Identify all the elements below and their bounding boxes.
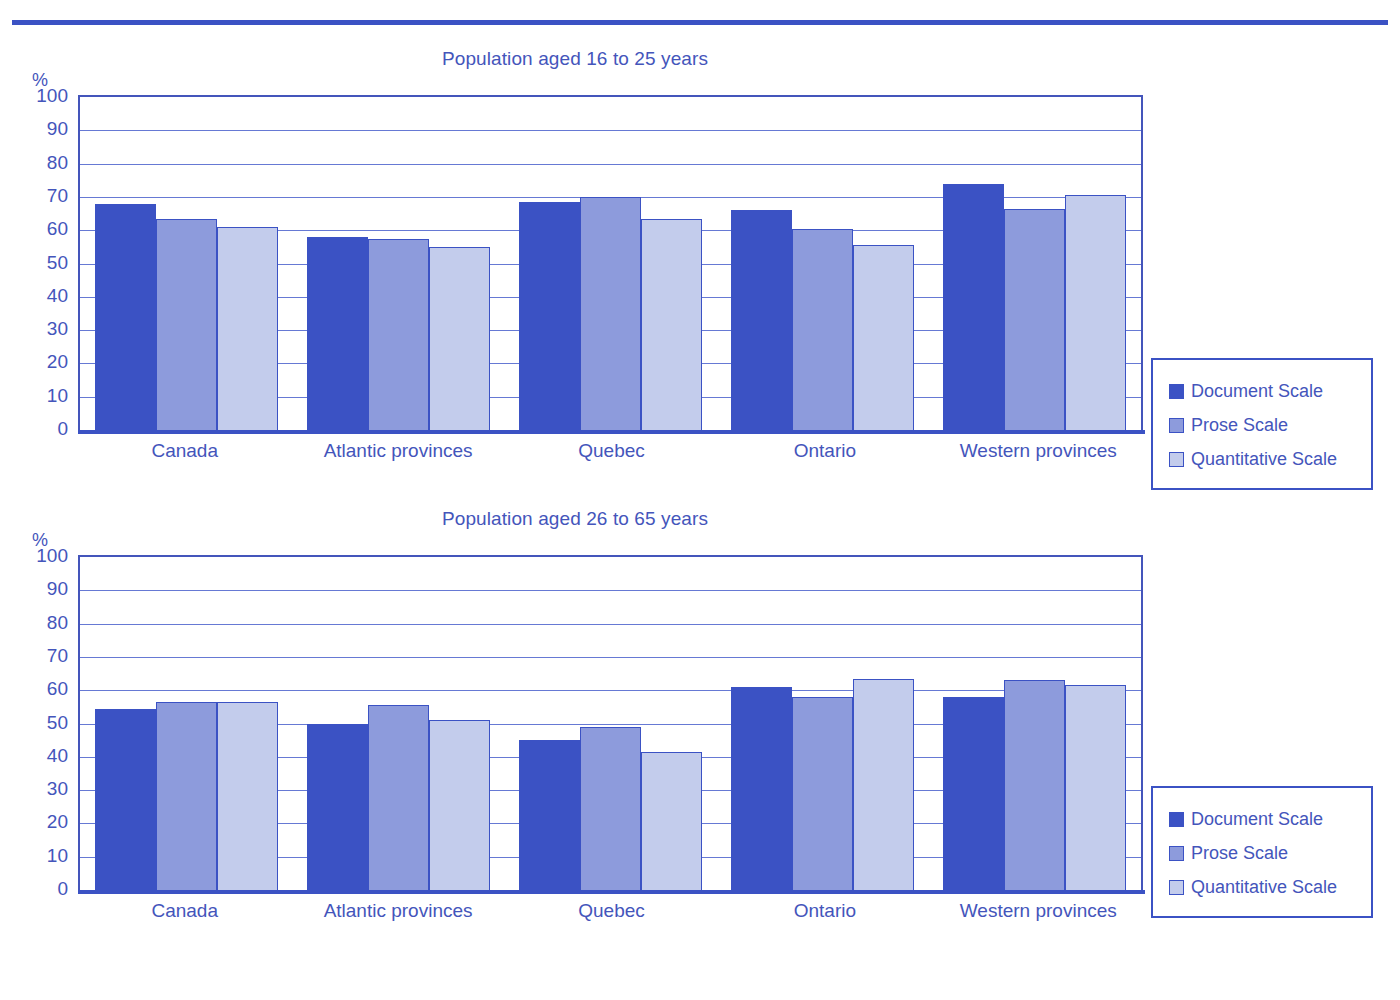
x-axis-tick-label: Ontario [718,440,931,462]
y-axis-tick-label: 20 [8,352,68,371]
x-axis-tick-label: Western provinces [932,900,1145,922]
legend-swatch-prose-scale-icon [1169,846,1184,861]
legend-item: Document Scale [1169,374,1355,408]
x-axis-tick-label: Canada [78,440,291,462]
y-axis-tick-label: 20 [8,812,68,831]
bar-group [307,557,490,890]
legend-label: Prose Scale [1191,843,1288,864]
y-axis-tick-label: 40 [8,286,68,305]
x-axis-baseline [78,430,1145,434]
bar [307,724,368,891]
bar [95,204,156,430]
legend-item: Prose Scale [1169,836,1355,870]
x-axis-tick-label: Atlantic provinces [291,440,504,462]
legend-swatch-quantitative-scale-icon [1169,880,1184,895]
y-axis-tick-label: 40 [8,746,68,765]
bar-group [731,557,914,890]
legend-label: Document Scale [1191,809,1323,830]
chart-population-26-to-65: Population aged 26 to 65 years % CanadaA… [0,500,1400,960]
y-axis-tick-label: 70 [8,646,68,665]
bar [156,219,217,430]
bar [429,247,490,430]
bar [943,184,1004,430]
legend-swatch-document-scale-icon [1169,384,1184,399]
y-axis-tick-label: 30 [8,779,68,798]
y-axis-tick-label: 30 [8,319,68,338]
legend-item: Quantitative Scale [1169,870,1355,904]
bar [368,239,429,430]
bar [95,709,156,890]
y-axis-tick-label: 10 [8,846,68,865]
y-axis-tick-label: 80 [8,153,68,172]
bar-group [519,557,702,890]
x-axis-labels: CanadaAtlantic provincesQuebecOntarioWes… [78,900,1145,934]
y-axis-tick-label: 0 [8,419,68,438]
bar [519,202,580,430]
x-axis-tick-label: Atlantic provinces [291,900,504,922]
x-axis-baseline [78,890,1145,894]
bar-group [95,557,278,890]
bar [853,679,914,890]
bar [1065,685,1126,890]
x-axis-tick-label: Quebec [505,440,718,462]
bars-layer [80,97,1141,430]
x-axis-tick-label: Quebec [505,900,718,922]
bar-group [95,97,278,430]
y-axis-tick-label: 60 [8,219,68,238]
x-axis-labels: CanadaAtlantic provincesQuebecOntarioWes… [78,440,1145,474]
x-axis-tick-label: Ontario [718,900,931,922]
bar [217,702,278,890]
bar-group [307,97,490,430]
y-axis-tick-label: 70 [8,186,68,205]
bar [943,697,1004,890]
bar [368,705,429,890]
chart-legend: Document Scale Prose Scale Quantitative … [1151,786,1373,918]
y-axis-tick-label: 10 [8,386,68,405]
bar-group [943,97,1126,430]
bar [217,227,278,430]
bar [641,752,702,890]
legend-label: Quantitative Scale [1191,449,1337,470]
legend-label: Quantitative Scale [1191,877,1337,898]
bar [641,219,702,430]
bar-group [731,97,914,430]
chart-page: Population aged 16 to 25 years % CanadaA… [0,0,1400,1000]
bar [1004,209,1065,430]
bars-layer [80,557,1141,890]
y-axis-tick-label: 0 [8,879,68,898]
bar [156,702,217,890]
bar [519,740,580,890]
chart-title: Population aged 26 to 65 years [0,508,1150,530]
y-axis-tick-label: 100 [8,546,68,565]
y-axis-tick-label: 50 [8,253,68,272]
y-axis-tick-label: 90 [8,119,68,138]
bar [731,210,792,430]
y-axis-tick-label: 60 [8,679,68,698]
bar [580,727,641,890]
bar [731,687,792,890]
bar [307,237,368,430]
bar [1065,195,1126,430]
bar [853,245,914,430]
legend-label: Document Scale [1191,381,1323,402]
chart-population-16-to-25: Population aged 16 to 25 years % CanadaA… [0,40,1400,490]
legend-label: Prose Scale [1191,415,1288,436]
x-axis-tick-label: Canada [78,900,291,922]
bar [429,720,490,890]
legend-swatch-document-scale-icon [1169,812,1184,827]
y-axis-tick-label: 50 [8,713,68,732]
y-axis-tick-label: 100 [8,86,68,105]
bar [1004,680,1065,890]
header-rule [12,20,1388,25]
bar-group [519,97,702,430]
legend-swatch-quantitative-scale-icon [1169,452,1184,467]
legend-item: Document Scale [1169,802,1355,836]
chart-legend: Document Scale Prose Scale Quantitative … [1151,358,1373,490]
bar [792,697,853,890]
bar [580,197,641,430]
x-axis-tick-label: Western provinces [932,440,1145,462]
legend-item: Quantitative Scale [1169,442,1355,476]
y-axis-tick-label: 90 [8,579,68,598]
chart-title: Population aged 16 to 25 years [0,48,1150,70]
y-axis-tick-label: 80 [8,613,68,632]
